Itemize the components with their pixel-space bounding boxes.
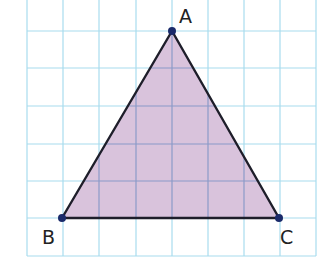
vertex-b-point bbox=[58, 214, 66, 222]
vertex-a-label: A bbox=[179, 5, 192, 27]
vertex-c-label: C bbox=[280, 226, 293, 248]
triangle-diagram: A B C bbox=[0, 0, 329, 271]
vertex-a-point bbox=[168, 27, 176, 35]
vertex-c-point bbox=[275, 214, 283, 222]
vertex-b-label: B bbox=[42, 226, 55, 248]
triangle-fill bbox=[62, 31, 279, 218]
diagram-canvas: A B C bbox=[0, 0, 329, 271]
